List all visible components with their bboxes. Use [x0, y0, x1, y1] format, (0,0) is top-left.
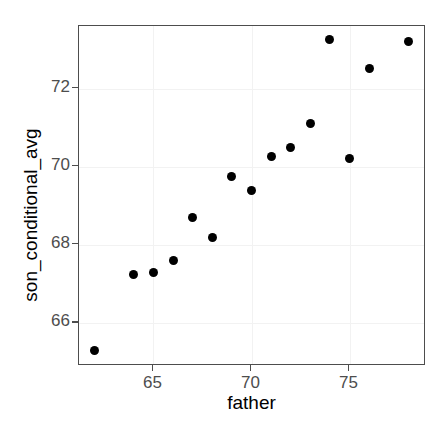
data-point	[208, 233, 217, 242]
gridline-horizontal	[79, 89, 424, 90]
y-tick-label: 68	[8, 233, 70, 253]
data-point	[404, 37, 413, 46]
x-tick-label: 65	[122, 373, 182, 393]
gridline-vertical	[350, 26, 351, 364]
y-tick-mark	[72, 165, 78, 166]
data-point	[345, 154, 354, 163]
data-point	[286, 143, 295, 152]
data-point	[188, 213, 197, 222]
gridline-vertical	[153, 26, 154, 364]
scatter-plot-figure: son_conditional_avg father 6668707265707…	[0, 0, 443, 428]
gridline-horizontal	[79, 245, 424, 246]
data-point	[306, 119, 315, 128]
gridline-horizontal	[79, 167, 424, 168]
y-tick-mark	[72, 321, 78, 322]
data-point	[149, 268, 158, 277]
gridline-horizontal	[79, 323, 424, 324]
data-point	[365, 64, 374, 73]
x-tick-mark	[250, 365, 251, 371]
y-tick-label: 70	[8, 155, 70, 175]
data-point	[247, 186, 256, 195]
data-point	[169, 256, 178, 265]
plot-area	[79, 26, 424, 364]
gridline-vertical	[252, 26, 253, 364]
data-point	[129, 270, 138, 279]
data-point	[267, 152, 276, 161]
y-tick-mark	[72, 243, 78, 244]
plot-panel	[78, 25, 425, 365]
x-tick-mark	[348, 365, 349, 371]
y-tick-label: 66	[8, 311, 70, 331]
x-tick-label: 70	[221, 373, 281, 393]
data-point	[325, 35, 334, 44]
x-tick-mark	[152, 365, 153, 371]
x-tick-label: 75	[319, 373, 379, 393]
data-point	[90, 346, 99, 355]
y-tick-mark	[72, 87, 78, 88]
y-tick-label: 72	[8, 77, 70, 97]
x-axis-title: father	[78, 392, 425, 414]
data-point	[227, 172, 236, 181]
